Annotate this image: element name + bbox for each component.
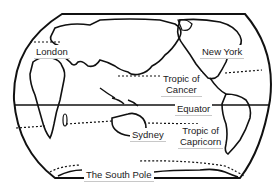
label-south-pole: The South Pole [84,168,154,182]
africa-outline [30,58,65,139]
map-border [14,14,271,178]
tropic-of-cancer-line2: Cancer [163,84,200,95]
madagascar-outline [63,114,67,126]
south-america-outline [222,94,251,154]
label-sydney: Sydney [130,128,166,142]
label-new-york: New York [200,45,244,59]
tropic-of-cancer-line1: Tropic of [163,73,200,84]
world-map-outline [0,0,276,190]
label-tropic-of-capricorn: Tropic of Capricorn [178,124,223,149]
tropic-of-capricorn-line1: Tropic of [180,125,221,136]
tropic-of-capricorn-line-mid [66,121,112,124]
tropic-of-capricorn-line [16,126,45,128]
label-london: London [34,45,70,59]
eurasia-outline [51,19,181,75]
world-map-diagram: London New York Tropic of Cancer Equator… [0,0,276,190]
se-asia-islands [100,88,138,106]
label-equator: Equator [175,102,212,116]
label-tropic-of-cancer: Tropic of Cancer [161,72,202,97]
tropic-of-capricorn-line2: Capricorn [180,136,221,147]
tropic-of-cancer-line-east [225,70,262,73]
central-america-outline [210,78,226,94]
